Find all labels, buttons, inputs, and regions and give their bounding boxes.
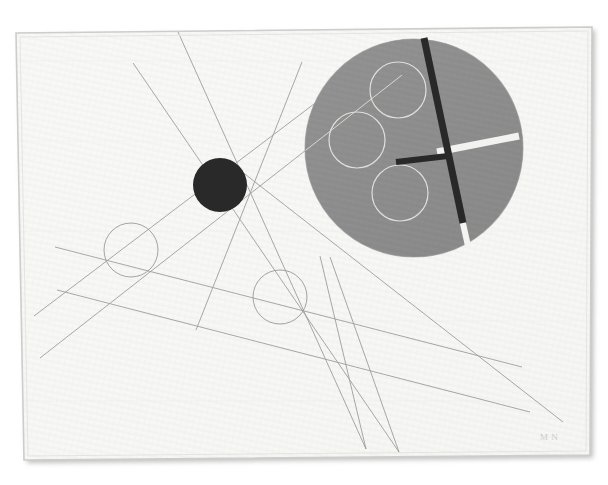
painting-svg: M N [0, 0, 608, 485]
artwork-canvas: M N [0, 0, 608, 485]
canvas-surface: M N [0, 0, 608, 485]
